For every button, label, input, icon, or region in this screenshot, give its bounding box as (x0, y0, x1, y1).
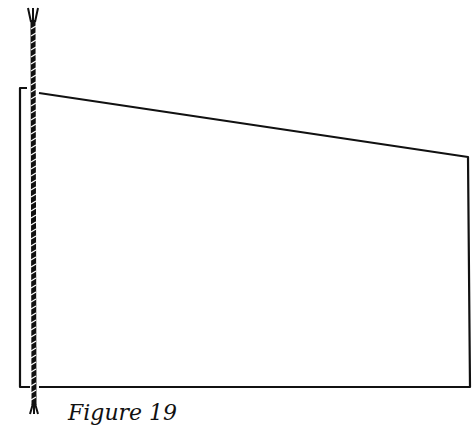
panel-outline (20, 88, 470, 387)
figure-caption: Figure 19 (68, 400, 177, 426)
diagram-figure (0, 0, 474, 426)
twisted-cord (28, 8, 38, 414)
